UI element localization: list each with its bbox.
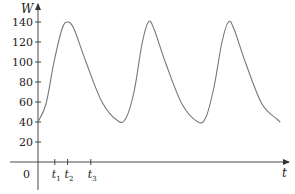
y-tick-label: 60: [19, 96, 33, 109]
x-tick-label: t1: [52, 168, 61, 183]
axes: [10, 4, 289, 190]
x-tick-label: t2: [65, 168, 74, 183]
y-axis-ticks: 20406080100120140: [12, 16, 41, 149]
data-line: [38, 21, 280, 123]
y-tick-label: 40: [19, 116, 33, 129]
y-tick-label: 100: [12, 56, 33, 69]
chart-canvas: 20406080100120140 t1t2t3 W t 0: [0, 0, 295, 194]
y-tick-label: 120: [12, 36, 33, 49]
x-axis-label: t: [282, 166, 287, 180]
y-tick-label: 140: [12, 16, 33, 29]
x-axis-ticks: t1t2t3: [52, 159, 97, 183]
y-tick-label: 20: [19, 136, 33, 149]
origin-label: 0: [23, 168, 30, 181]
x-tick-label: t3: [88, 168, 97, 183]
y-axis-label: W: [21, 2, 35, 16]
y-tick-label: 80: [19, 76, 33, 89]
